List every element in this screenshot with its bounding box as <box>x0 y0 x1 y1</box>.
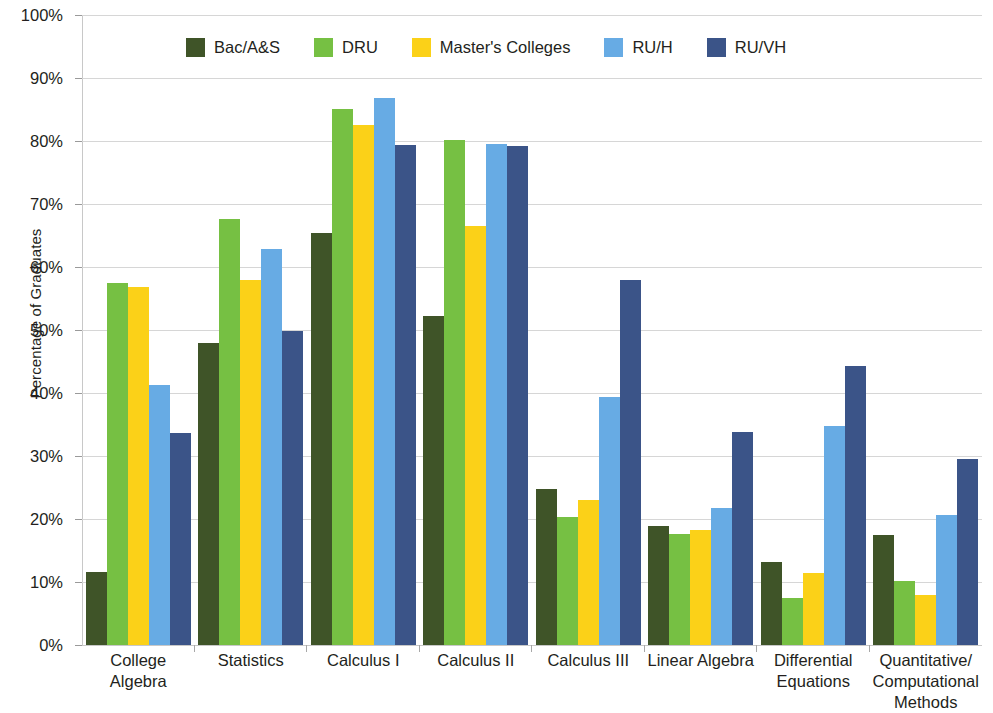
y-axis-tick-label: 70% <box>0 195 74 214</box>
y-axis-tick-label: 50% <box>0 321 74 340</box>
bar <box>395 145 416 645</box>
bar <box>86 572 107 645</box>
bar <box>873 535 894 645</box>
chart-legend: Bac/A&SDRUMaster's CollegesRU/HRU/VH <box>186 38 786 57</box>
bar-group <box>420 15 533 645</box>
bar-group-bars <box>648 15 753 645</box>
bar <box>353 125 374 645</box>
y-axis-tick-mark <box>75 78 82 79</box>
bar <box>732 432 753 645</box>
bar <box>311 233 332 645</box>
bar-group <box>195 15 308 645</box>
bar <box>444 140 465 645</box>
bar <box>845 366 866 645</box>
bar-group-bars <box>423 15 528 645</box>
legend-swatch-icon <box>412 38 431 57</box>
bar <box>803 573 824 645</box>
bar-group-bars <box>761 15 866 645</box>
y-axis-tick-label: 10% <box>0 573 74 592</box>
bar <box>648 526 669 645</box>
x-axis-category-label: Calculus III <box>532 650 645 713</box>
legend-label: RU/VH <box>735 38 786 57</box>
x-axis-category-label: Linear Algebra <box>645 650 758 713</box>
y-axis-tick-mark <box>75 330 82 331</box>
bar-group <box>532 15 645 645</box>
bar-group <box>645 15 758 645</box>
y-axis-tick-mark <box>75 456 82 457</box>
bar <box>128 287 149 645</box>
bar <box>599 397 620 645</box>
bar <box>374 98 395 645</box>
bar <box>219 219 240 645</box>
y-axis-tick-label: 30% <box>0 447 74 466</box>
x-axis-category-label: Calculus II <box>420 650 533 713</box>
bar <box>690 530 711 645</box>
y-axis-tick-mark <box>75 393 82 394</box>
bar-group <box>307 15 420 645</box>
y-axis-tick-label: 80% <box>0 132 74 151</box>
bar <box>198 343 219 645</box>
bar <box>761 562 782 645</box>
x-axis-category-label: College Algebra <box>82 650 195 713</box>
bar-chart: Percentage of Graduates 100%90%80%70%60%… <box>0 0 993 713</box>
bar-group-bars <box>536 15 641 645</box>
bar <box>170 433 191 645</box>
bar <box>107 283 128 645</box>
bar <box>332 109 353 645</box>
bar <box>894 581 915 645</box>
bar <box>578 500 599 645</box>
y-axis-tick-mark <box>75 141 82 142</box>
legend-label: Bac/A&S <box>214 38 280 57</box>
bar <box>557 517 578 645</box>
bar-group <box>870 15 983 645</box>
x-axis-category-label: Quantitative/ Computational Methods <box>870 650 983 713</box>
legend-label: Master's Colleges <box>440 38 571 57</box>
bar <box>711 508 732 645</box>
y-axis-tick-mark <box>75 204 82 205</box>
y-axis-tick-label: 90% <box>0 69 74 88</box>
bar <box>507 146 528 645</box>
bar <box>782 598 803 645</box>
y-axis-tick-mark <box>75 582 82 583</box>
bar <box>423 316 444 645</box>
legend-swatch-icon <box>707 38 726 57</box>
legend-swatch-icon <box>186 38 205 57</box>
y-axis-tick-mark <box>75 519 82 520</box>
bar <box>915 595 936 645</box>
bar-groups <box>82 15 982 645</box>
legend-item: DRU <box>314 38 378 57</box>
bar-group-bars <box>311 15 416 645</box>
bar-group-bars <box>198 15 303 645</box>
bar <box>240 280 261 645</box>
bar-group <box>82 15 195 645</box>
legend-item: RU/H <box>604 38 672 57</box>
x-axis-category-label: Statistics <box>195 650 308 713</box>
y-axis-tick-mark <box>75 267 82 268</box>
bar <box>536 489 557 645</box>
bar-group-bars <box>86 15 191 645</box>
y-axis-tick-label: 20% <box>0 510 74 529</box>
legend-swatch-icon <box>314 38 333 57</box>
x-axis-category-labels: College AlgebraStatisticsCalculus ICalcu… <box>82 650 982 713</box>
x-axis-category-label: Differential Equations <box>757 650 870 713</box>
bar <box>282 331 303 645</box>
y-axis-tick-label: 0% <box>0 636 74 655</box>
x-axis-category-label: Calculus I <box>307 650 420 713</box>
bar <box>465 226 486 645</box>
plot-area <box>82 15 982 645</box>
bar <box>486 144 507 645</box>
bar-group <box>757 15 870 645</box>
legend-swatch-icon <box>604 38 623 57</box>
bar <box>149 385 170 645</box>
y-axis-tick-label: 100% <box>0 6 74 25</box>
y-axis-tick-mark <box>75 15 82 16</box>
legend-label: RU/H <box>632 38 672 57</box>
y-axis-tick-label: 60% <box>0 258 74 277</box>
bar <box>824 426 845 645</box>
legend-item: Master's Colleges <box>412 38 571 57</box>
bar-group-bars <box>873 15 978 645</box>
legend-item: RU/VH <box>707 38 786 57</box>
gridline <box>82 645 982 646</box>
bar <box>957 459 978 645</box>
legend-item: Bac/A&S <box>186 38 280 57</box>
